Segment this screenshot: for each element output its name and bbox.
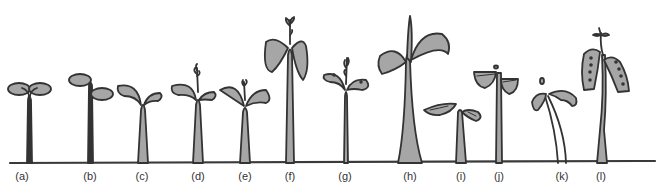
label-b: (b) — [83, 170, 96, 182]
seedling-drawing — [0, 0, 657, 194]
seedling-k — [532, 78, 577, 163]
seedling-g — [324, 58, 369, 163]
seedling-i — [424, 104, 481, 163]
label-k: (k) — [556, 170, 569, 182]
seedling-b — [69, 74, 113, 163]
seedling-l — [582, 28, 629, 163]
label-d: (d) — [191, 170, 204, 182]
seedling-a — [8, 83, 51, 163]
seedling-f — [265, 17, 308, 163]
label-g: (g) — [338, 170, 351, 182]
seedling-c — [118, 85, 162, 163]
label-h: (h) — [403, 170, 416, 182]
seedling-d — [172, 64, 216, 163]
label-e: (e) — [238, 170, 251, 182]
label-j: (j) — [494, 170, 504, 182]
label-c: (c) — [136, 170, 149, 182]
label-l: (l) — [596, 170, 606, 182]
label-f: (f) — [285, 170, 295, 182]
seedling-h — [378, 16, 449, 163]
seedling-illustration: (a) (b) (c) (d) (e) (f) (g) (h) (i) (j) … — [0, 0, 657, 194]
seedling-e — [220, 80, 270, 163]
label-a: (a) — [15, 170, 28, 182]
label-i: (i) — [456, 170, 466, 182]
